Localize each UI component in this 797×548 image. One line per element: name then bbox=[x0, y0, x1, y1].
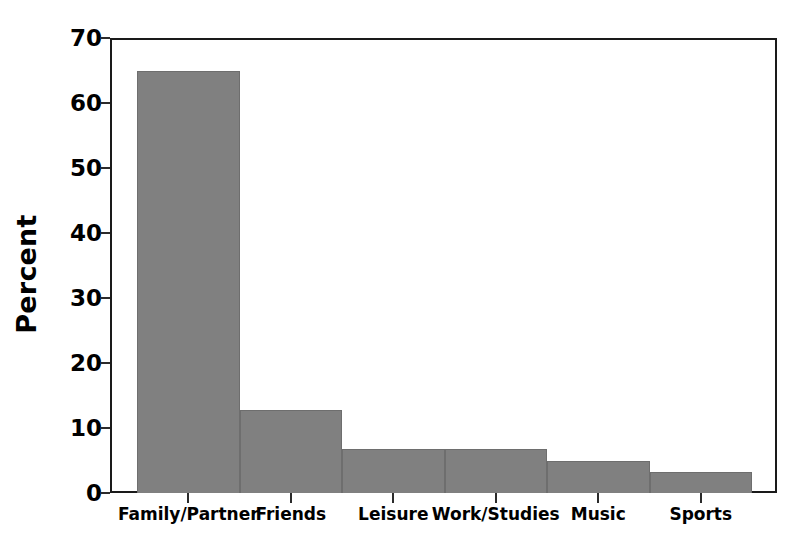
x-axis-tick-mark bbox=[392, 493, 394, 503]
y-axis-tick-label: 40 bbox=[42, 222, 102, 245]
x-axis-tick-label: Sports bbox=[669, 505, 732, 524]
y-axis-tick-mark bbox=[101, 102, 110, 104]
x-axis-tick-mark bbox=[187, 493, 189, 503]
y-axis-tick-mark bbox=[101, 232, 110, 234]
y-axis-tick-mark bbox=[101, 492, 110, 494]
y-axis-tick-mark bbox=[101, 297, 110, 299]
bar bbox=[240, 410, 343, 493]
y-axis-tick-label: 60 bbox=[42, 92, 102, 115]
y-axis-tick-label: 70 bbox=[42, 27, 102, 50]
y-axis-tick-label: 30 bbox=[42, 287, 102, 310]
bar-chart-figure: Percent 010203040506070 Family/PartnerFr… bbox=[0, 0, 797, 548]
x-axis-tick-mark bbox=[290, 493, 292, 503]
bar bbox=[445, 449, 548, 493]
y-axis-tick-mark bbox=[101, 362, 110, 364]
x-axis-tick-label: Family/Partner bbox=[118, 505, 259, 524]
bars-layer bbox=[110, 38, 777, 493]
x-axis-tick-label: Work/Studies bbox=[432, 505, 560, 524]
y-axis-tick-label: 0 bbox=[42, 482, 102, 505]
bar bbox=[547, 461, 650, 494]
x-axis-tick-mark bbox=[597, 493, 599, 503]
y-axis-tick-mark bbox=[101, 167, 110, 169]
x-axis-tick-mark bbox=[495, 493, 497, 503]
y-axis-tick-labels: 010203040506070 bbox=[40, 0, 102, 548]
bar bbox=[342, 449, 445, 493]
y-axis-tick-label: 50 bbox=[42, 157, 102, 180]
y-axis-tick-mark bbox=[101, 37, 110, 39]
x-axis-tick-mark bbox=[700, 493, 702, 503]
y-axis-tick-label: 10 bbox=[42, 417, 102, 440]
x-axis-tick-label: Leisure bbox=[358, 505, 428, 524]
bar bbox=[137, 71, 240, 494]
bar bbox=[650, 472, 753, 493]
y-axis-tick-label: 20 bbox=[42, 352, 102, 375]
y-axis-tick-mark bbox=[101, 427, 110, 429]
x-axis-tick-label: Music bbox=[571, 505, 626, 524]
x-axis-tick-label: Friends bbox=[255, 505, 326, 524]
